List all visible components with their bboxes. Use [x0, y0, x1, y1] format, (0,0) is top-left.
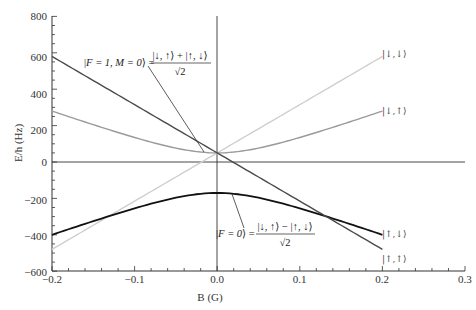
leader-line-triplet	[148, 66, 204, 152]
y-tick-label: 200	[31, 124, 48, 136]
x-tick-label: 0.0	[210, 273, 224, 285]
x-tick-label: −0.1	[125, 273, 145, 285]
y-tick-label: −400	[24, 230, 47, 242]
label-up-down: |↑,↓⟩	[382, 229, 407, 240]
leader-line-singlet	[232, 194, 244, 228]
y-tick-label: 0	[42, 156, 48, 168]
y-tick-label: 400	[31, 88, 48, 100]
triplet-lhs: |F = 1, M = 0⟩ =	[84, 57, 154, 68]
x-tick-labels: −0.2 −0.1 0.0 0.1 0.2 0.3	[42, 273, 472, 285]
y-tick-label: −200	[24, 194, 47, 206]
energy-level-chart: 800 600 400 200 0 −200 −400 −600 −0.2 −0…	[0, 0, 476, 310]
label-up-up: |↑,↑⟩	[382, 254, 407, 265]
triplet-numerator: |↓, ↑⟩ + |↑, ↓⟩	[152, 50, 207, 61]
y-tick-label: 800	[31, 10, 48, 22]
x-tick-label: 0.2	[375, 273, 389, 285]
y-tick-labels: 800 600 400 200 0 −200 −400 −600	[24, 10, 47, 278]
triplet-denominator: √2	[174, 66, 185, 77]
x-tick-label: 0.1	[293, 273, 307, 285]
singlet-numerator: |↓, ↑⟩ − |↑, ↓⟩	[257, 221, 312, 232]
x-tick-label: 0.3	[458, 273, 472, 285]
state-labels: |↓,↓⟩ |↓,↑⟩ |↑,↓⟩ |↑,↑⟩	[382, 49, 407, 265]
y-tick-label: 600	[31, 51, 48, 63]
x-axis-title: B (G)	[197, 291, 223, 304]
y-axis-title: E/h (Hz)	[12, 124, 25, 163]
x-tick-label: −0.2	[42, 273, 62, 285]
annotation-triplet: |F = 1, M = 0⟩ = |↓, ↑⟩ + |↑, ↓⟩ √2	[84, 50, 211, 152]
singlet-lhs: |F = 0⟩ =	[216, 228, 255, 239]
label-down-up: |↓,↑⟩	[382, 106, 407, 117]
x-ticks	[52, 266, 465, 271]
label-down-down: |↓,↓⟩	[382, 49, 407, 60]
singlet-denominator: √2	[279, 237, 290, 248]
